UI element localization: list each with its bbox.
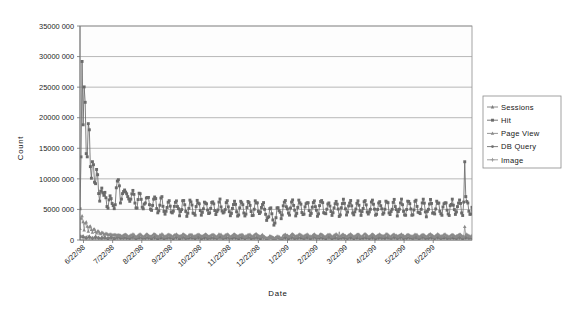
series-marker	[491, 145, 494, 148]
series-marker	[110, 197, 113, 200]
series-marker	[291, 198, 294, 201]
series-marker	[104, 196, 107, 199]
series-marker	[440, 214, 443, 217]
series-marker	[354, 208, 357, 211]
series-marker	[361, 210, 364, 213]
series-marker	[140, 198, 143, 201]
series-marker	[194, 214, 197, 217]
series-marker	[90, 177, 93, 180]
series-marker	[95, 168, 98, 171]
series-marker	[368, 210, 371, 213]
series-marker	[83, 85, 86, 88]
series-marker	[458, 199, 461, 202]
series-marker	[289, 207, 292, 210]
series-marker	[256, 201, 259, 204]
series-marker	[201, 211, 204, 214]
series-marker	[125, 192, 128, 195]
series-marker	[446, 209, 449, 212]
series-marker	[91, 160, 94, 163]
series-marker	[191, 204, 194, 207]
series-marker	[318, 204, 321, 207]
series-marker	[425, 215, 428, 218]
series-marker	[269, 206, 272, 209]
series-marker	[85, 152, 88, 155]
series-marker	[340, 206, 343, 209]
series-marker	[422, 198, 425, 201]
series-marker	[427, 208, 430, 211]
series-marker	[202, 207, 205, 210]
series-marker	[419, 212, 422, 215]
series-marker	[304, 205, 307, 208]
series-marker	[263, 208, 266, 211]
series-marker	[195, 205, 198, 208]
series-marker	[288, 214, 291, 217]
series-marker	[393, 198, 396, 201]
series-marker	[349, 199, 352, 202]
series-marker	[249, 204, 252, 207]
series-marker	[491, 119, 494, 122]
series-marker	[358, 204, 361, 207]
y-tick-label-7: 35000 000	[39, 22, 74, 31]
series-marker	[335, 200, 338, 203]
series-marker	[365, 203, 368, 206]
series-marker	[275, 216, 278, 219]
series-marker	[411, 213, 414, 216]
series-marker	[325, 208, 328, 211]
series-marker	[172, 210, 175, 213]
series-marker	[353, 210, 356, 213]
series-marker	[356, 199, 359, 202]
series-marker	[404, 214, 407, 217]
series-marker	[113, 207, 116, 210]
series-marker	[346, 211, 349, 214]
chart-figure: 05000 00010000 00015000 00020000 0002500…	[0, 0, 566, 316]
y-tick-label-0: 0	[70, 236, 74, 245]
series-marker	[456, 205, 459, 208]
series-marker	[241, 203, 244, 206]
chart-legend: SessionsHitPage ViewDB QueryImage	[483, 96, 561, 168]
chart-canvas: 05000 00010000 00015000 00020000 0002500…	[0, 0, 566, 316]
series-marker	[234, 203, 237, 206]
series-marker	[376, 208, 379, 211]
series-marker	[462, 201, 465, 204]
series-marker	[313, 199, 316, 202]
series-marker	[226, 199, 229, 202]
series-marker	[321, 201, 324, 204]
series-marker	[470, 213, 473, 216]
series-marker	[314, 205, 317, 208]
series-marker	[237, 214, 240, 217]
series-marker	[284, 199, 287, 202]
series-marker	[158, 204, 161, 207]
series-marker	[260, 206, 263, 209]
series-marker	[96, 173, 99, 176]
series-marker	[466, 202, 469, 205]
series-marker	[398, 208, 401, 211]
series-marker	[214, 213, 217, 216]
series-marker	[183, 203, 186, 206]
series-marker	[150, 209, 153, 212]
series-marker	[350, 204, 353, 207]
series-marker	[389, 213, 392, 216]
series-marker	[136, 207, 139, 210]
series-marker	[375, 213, 378, 216]
series-marker	[442, 206, 445, 209]
series-marker	[286, 208, 289, 211]
series-marker	[87, 122, 90, 125]
series-marker	[369, 208, 372, 211]
series-marker	[169, 205, 172, 208]
series-marker	[459, 202, 462, 205]
series-marker	[391, 208, 394, 211]
series-marker	[328, 205, 331, 208]
series-marker	[324, 212, 327, 215]
series-marker	[296, 206, 299, 209]
series-marker	[327, 201, 330, 204]
series-marker	[230, 212, 233, 215]
series-marker	[423, 202, 426, 205]
series-marker	[315, 209, 318, 212]
x-axis-title: Date	[268, 289, 287, 298]
series-marker	[103, 191, 106, 194]
series-marker	[117, 178, 120, 181]
series-marker	[461, 214, 464, 217]
series-marker	[373, 208, 376, 211]
y-tick-label-1: 5000 000	[43, 205, 74, 214]
series-marker	[227, 205, 230, 208]
